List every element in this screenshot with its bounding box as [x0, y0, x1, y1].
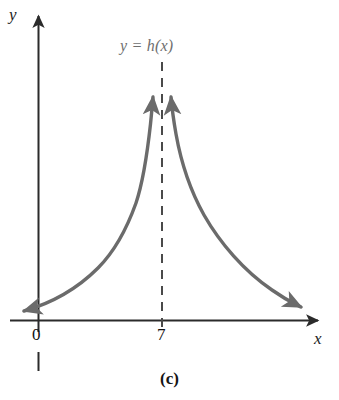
x-axis-label: x: [314, 330, 322, 347]
x-tick-label-origin: 0: [32, 326, 41, 343]
figure-container: y x 0 7 y = h(x) (c): [0, 0, 339, 400]
figure-caption: (c): [0, 370, 339, 387]
curve-right-branch: [171, 97, 301, 307]
curve-left-branch: [24, 97, 153, 311]
y-axis-label: y: [9, 6, 17, 23]
x-tick-label-seven: 7: [157, 326, 166, 343]
curve-equation-label: y = h(x): [120, 38, 173, 54]
graph-canvas: [0, 0, 339, 400]
